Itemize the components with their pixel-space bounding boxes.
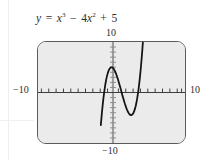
equation-plus-sign: + (99, 12, 109, 24)
graph-plot-area (37, 41, 186, 144)
equation-equals: = (44, 12, 54, 24)
axis-label-ymax: 10 (106, 27, 116, 38)
equation-term1-exponent: 3 (62, 11, 66, 19)
graph-svg (38, 42, 185, 143)
page-margin-rule-vertical (8, 0, 9, 160)
equation-constant-term: 5 (111, 12, 117, 24)
axis-label-xmin: −10 (13, 84, 29, 95)
axis-label-xmax: 10 (190, 84, 200, 95)
equation-lhs: y (36, 12, 41, 24)
page-rule-horizontal (0, 120, 34, 121)
equation-minus-sign: − (69, 12, 79, 24)
equation-term2-exponent: 2 (92, 11, 96, 19)
equation-caption: y = x3 − 4x2 + 5 (36, 12, 117, 24)
screenshot-canvas: y = x3 − 4x2 + 5 (0, 0, 210, 160)
axis-label-ymin: −10 (102, 145, 118, 156)
